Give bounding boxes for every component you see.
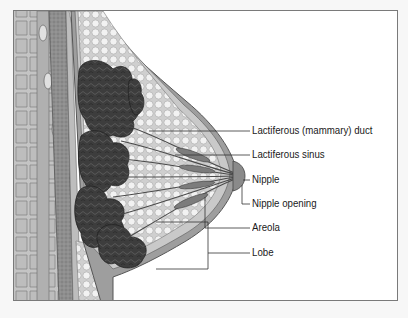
label-nipple-opening: Nipple opening [252, 197, 317, 209]
label-lactiferous-sinus: Lactiferous sinus [252, 148, 325, 160]
label-areola: Areola [252, 221, 280, 233]
diagram-frame [13, 10, 398, 301]
label-nipple: Nipple [252, 173, 279, 185]
breast-anatomy-illustration [14, 11, 398, 301]
label-lobe: Lobe [252, 246, 274, 258]
label-lactiferous-duct: Lactiferous (mammary) duct [252, 124, 373, 136]
nipple-shape [233, 161, 245, 191]
